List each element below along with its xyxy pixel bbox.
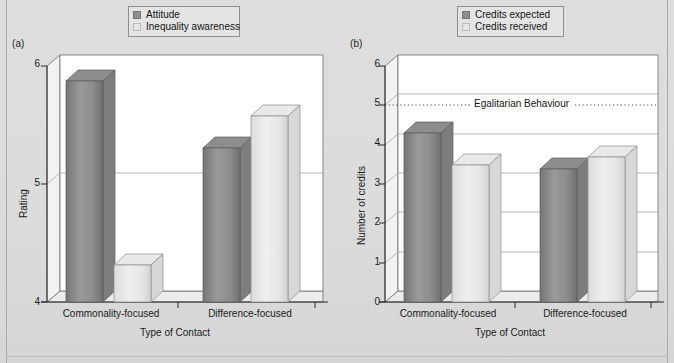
panel-b-xtick-difference: Difference-focused	[525, 308, 645, 319]
panel-b-plot-area	[340, 0, 674, 340]
panel-a-plot-area	[0, 0, 340, 340]
panel-a-x-axis-title: Type of Contact	[105, 327, 245, 338]
panel-b: (b) Credits expected Credits received Nu…	[340, 0, 674, 363]
panel-b-svg	[340, 0, 674, 340]
figure-canvas: (a) Attitude Inequality awareness Rating…	[0, 0, 674, 363]
panel-a: (a) Attitude Inequality awareness Rating…	[0, 0, 340, 363]
panel-b-x-axis-title: Type of Contact	[440, 327, 580, 338]
panel-b-xtick-commonality: Commonality-focused	[383, 308, 513, 319]
panel-a-xtick-commonality: Commonality-focused	[46, 308, 176, 319]
panel-a-xtick-difference: Difference-focused	[190, 308, 310, 319]
egalitarian-behaviour-label: Egalitarian Behaviour	[470, 98, 573, 109]
panel-a-svg	[0, 0, 340, 340]
